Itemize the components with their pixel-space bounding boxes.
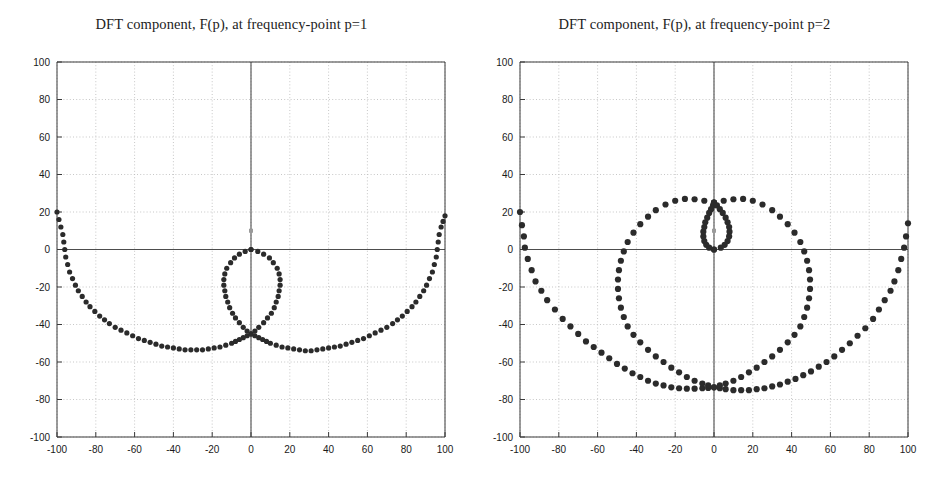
data-point (746, 369, 752, 375)
data-point (124, 330, 129, 335)
data-point (730, 196, 736, 202)
data-point (291, 346, 296, 351)
x-tick-label: 40 (323, 444, 335, 455)
data-point (65, 262, 70, 267)
x-tick-label: 60 (825, 444, 837, 455)
data-point (76, 288, 81, 293)
y-tick-label: 80 (502, 94, 514, 105)
data-point (645, 347, 651, 353)
data-point (754, 386, 760, 392)
data-point (424, 283, 429, 288)
data-point (777, 214, 783, 220)
data-point (373, 330, 378, 335)
data-point (684, 386, 690, 392)
data-point (676, 369, 682, 375)
data-point (738, 387, 744, 393)
data-point (233, 315, 238, 320)
data-point (532, 278, 538, 284)
data-series-inner-loop (221, 247, 282, 337)
data-point (200, 347, 205, 352)
data-point (113, 325, 118, 330)
data-point (876, 306, 882, 312)
y-tick-label: 0 (507, 244, 513, 255)
data-point (159, 343, 164, 348)
y-tick-label: 60 (39, 132, 51, 143)
data-point (606, 355, 612, 361)
data-point (224, 266, 229, 271)
data-point (230, 311, 235, 316)
data-point (277, 271, 282, 276)
data-point (378, 328, 383, 333)
data-point (268, 341, 273, 346)
x-tick-label: 0 (248, 444, 254, 455)
data-point (67, 269, 72, 274)
data-point (777, 347, 783, 353)
data-point (271, 260, 276, 265)
data-point (905, 220, 911, 226)
data-point (804, 258, 810, 264)
data-point (538, 288, 544, 294)
data-point (212, 345, 217, 350)
data-point (343, 342, 348, 347)
data-point (206, 346, 211, 351)
data-point (130, 333, 135, 338)
x-tick-label: 20 (747, 444, 759, 455)
data-point (102, 317, 107, 322)
data-point (637, 221, 643, 227)
data-point (241, 325, 246, 330)
data-point (222, 271, 227, 276)
data-point (153, 342, 158, 347)
data-point (182, 347, 187, 352)
data-point (831, 353, 837, 359)
y-tick-label: -40 (499, 319, 514, 330)
data-point (56, 217, 61, 222)
x-tick-label: -20 (668, 444, 683, 455)
x-tick-label: 60 (362, 444, 374, 455)
data-point (395, 317, 400, 322)
data-point (62, 247, 67, 252)
data-point (806, 267, 812, 273)
data-point (785, 379, 791, 385)
data-point (769, 383, 775, 389)
x-tick-label: -80 (552, 444, 567, 455)
data-point (625, 323, 631, 329)
data-point (165, 344, 170, 349)
data-point (637, 374, 643, 380)
data-point (326, 345, 331, 350)
data-point (63, 254, 68, 259)
data-point (668, 384, 674, 390)
data-point (261, 252, 266, 257)
data-point (367, 333, 372, 338)
data-point (84, 299, 89, 304)
data-point (699, 380, 705, 386)
y-tick-label: 100 (496, 57, 513, 68)
data-point (243, 249, 248, 254)
data-point (87, 304, 92, 309)
figure-root: DFT component, F(p), at frequency-point … (0, 0, 926, 498)
data-point (754, 365, 760, 371)
data-point (730, 378, 736, 384)
y-tick-label: 100 (33, 57, 50, 68)
data-point (61, 239, 66, 244)
data-point (615, 276, 621, 282)
data-point (792, 376, 798, 382)
data-point (854, 333, 860, 339)
data-point (630, 230, 636, 236)
data-point (136, 336, 141, 341)
data-point (882, 297, 888, 303)
data-point (256, 325, 261, 330)
data-point (645, 378, 651, 384)
data-point (618, 305, 624, 311)
data-point (672, 198, 678, 204)
x-tick-label: 100 (900, 444, 917, 455)
data-point (552, 306, 558, 312)
y-tick-label: -100 (493, 432, 513, 443)
data-point (309, 348, 314, 353)
data-point (614, 361, 620, 367)
data-point (265, 315, 270, 320)
data-point (314, 347, 319, 352)
data-point (668, 365, 674, 371)
data-point (269, 311, 274, 316)
x-tick-label: 100 (437, 444, 454, 455)
y-tick-label: -80 (499, 394, 514, 405)
